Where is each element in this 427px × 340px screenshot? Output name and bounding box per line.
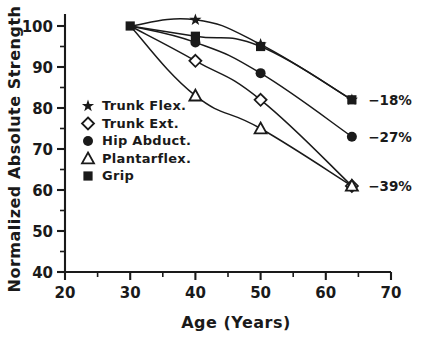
legend-marker-filled-circle <box>83 136 93 146</box>
y-axis-ticks <box>57 26 65 272</box>
series-trunk-flex <box>130 13 358 105</box>
legend-item-plantarflex[interactable]: Plantarflex. <box>82 151 191 166</box>
x-tick-label: 40 <box>185 284 206 302</box>
legend-item-grip[interactable]: Grip <box>83 168 134 183</box>
marker-filled-circle <box>256 68 266 78</box>
y-tick-label: 50 <box>32 223 53 241</box>
legend-label: Trunk Ext. <box>102 116 179 131</box>
x-tick-label: 60 <box>315 284 336 302</box>
marker-filled-circle <box>347 132 357 142</box>
marker-filled-square <box>191 32 200 41</box>
y-axis-tick-labels: 405060708090100 <box>22 18 53 282</box>
legend-item-hip-abduct[interactable]: Hip Abduct. <box>83 133 191 148</box>
y-axis-title: Normalized Absolute Strength <box>5 6 24 293</box>
legend-marker-open-triangle <box>82 153 94 164</box>
x-tick-label: 50 <box>250 284 271 302</box>
y-tick-label: 40 <box>32 264 53 282</box>
x-tick-label: 30 <box>120 284 141 302</box>
y-tick-label: 60 <box>32 182 53 200</box>
marker-filled-square <box>347 95 356 104</box>
chart-canvas: 405060708090100203040506070Age (Years)No… <box>0 0 427 340</box>
legend-item-trunk-flex[interactable]: Trunk Flex. <box>82 98 186 113</box>
series-change-annotation: −39% <box>368 178 412 194</box>
x-axis-title: Age (Years) <box>181 313 291 332</box>
legend-marker-filled-square <box>83 171 92 180</box>
marker-filled-square <box>256 42 265 51</box>
legend-marker-open-diamond <box>82 118 94 130</box>
x-axis-tick-labels: 203040506070 <box>55 284 402 302</box>
series-line <box>130 26 352 100</box>
chart-annotations: −18%−27%−39% <box>368 92 412 194</box>
series-change-annotation: −27% <box>368 129 412 145</box>
marker-open-diamond <box>189 55 201 67</box>
series-change-annotation: −18% <box>368 92 412 108</box>
marker-open-triangle <box>255 123 267 134</box>
x-tick-label: 70 <box>381 284 402 302</box>
x-axis-title: Age (Years) <box>181 313 291 332</box>
y-tick-label: 100 <box>22 18 53 36</box>
chart-legend: Trunk Flex.Trunk Ext.Hip Abduct.Plantarf… <box>82 98 191 183</box>
legend-label: Plantarflex. <box>102 151 191 166</box>
legend-label: Trunk Flex. <box>102 98 186 113</box>
legend-label: Hip Abduct. <box>102 133 191 148</box>
y-tick-label: 80 <box>32 100 53 118</box>
y-tick-label: 90 <box>32 59 53 77</box>
legend-marker-star <box>82 100 94 112</box>
y-tick-label: 70 <box>32 141 53 159</box>
x-tick-label: 20 <box>55 284 76 302</box>
y-axis-title: Normalized Absolute Strength <box>5 6 24 293</box>
legend-label: Grip <box>102 168 134 183</box>
chart-figure: 405060708090100203040506070Age (Years)No… <box>0 0 427 340</box>
marker-filled-square <box>126 21 135 30</box>
x-axis-ticks <box>65 272 391 280</box>
marker-star <box>189 13 201 25</box>
legend-item-trunk-ext[interactable]: Trunk Ext. <box>82 116 179 131</box>
